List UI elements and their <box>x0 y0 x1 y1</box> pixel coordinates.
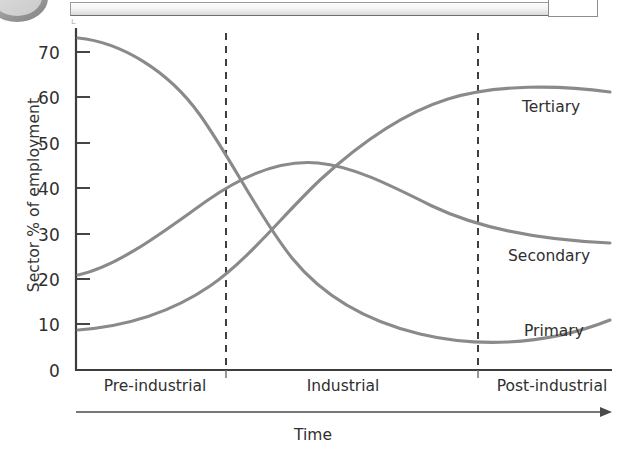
x-axis-title: Time <box>0 426 626 444</box>
x-phase-label-industrial: Industrial <box>258 377 428 395</box>
y-tick-marks <box>76 52 90 324</box>
series-label-tertiary: Tertiary <box>522 98 580 116</box>
axis-lines <box>75 28 612 371</box>
series-label-secondary: Secondary <box>508 247 590 265</box>
series-curve-tertiary <box>78 87 610 330</box>
time-axis-arrow <box>76 407 612 417</box>
series-curve-primary <box>78 38 610 342</box>
x-phase-label-pre-industrial: Pre-industrial <box>85 377 225 395</box>
phase-divider-lines <box>226 33 478 369</box>
series-label-primary: Primary <box>524 322 584 340</box>
employment-sector-chart-figure: ʟ Sector % of employment 70 60 50 40 30 … <box>0 0 626 456</box>
x-phase-label-post-industrial: Post-industrial <box>478 377 626 395</box>
